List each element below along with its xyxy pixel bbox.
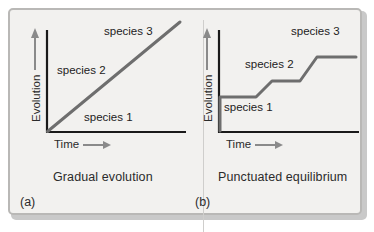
panel-b-plot xyxy=(193,0,374,232)
panel-a-y-arrow-icon xyxy=(31,28,39,70)
panel-b-y-arrow-icon xyxy=(203,28,211,70)
panel-a-y-axis-label: Evolution xyxy=(30,75,42,122)
panel-a-y-axis-label-group: Evolution xyxy=(30,75,42,122)
panel-a-species-3-label: species 3 xyxy=(104,25,153,37)
panel-a-x-arrow-icon xyxy=(83,140,111,149)
panel-b-species-3-label: species 3 xyxy=(291,25,340,37)
panel-a-x-axis-label-group: Time xyxy=(54,138,111,150)
panel-a-species-2-label: species 2 xyxy=(57,64,106,76)
panel-b-y-axis-label-group: Evolution xyxy=(202,75,214,122)
panel-punctuated-equilibrium: Evolution Time species 1 species 2 speci… xyxy=(193,0,374,232)
panel-a-letter: (a) xyxy=(20,195,35,209)
panel-a-caption: Gradual evolution xyxy=(53,170,153,184)
panel-b-species-1-label: species 1 xyxy=(224,101,273,113)
panel-b-y-axis-label: Evolution xyxy=(202,75,214,122)
figure-root: Evolution Time species 1 species 2 speci… xyxy=(0,0,374,232)
panel-b-caption: Punctuated equilibrium xyxy=(218,170,347,184)
panel-a-x-axis-label: Time xyxy=(54,138,79,150)
panel-b-species-2-label: species 2 xyxy=(245,58,294,70)
panel-a-species-1-label: species 1 xyxy=(84,111,133,123)
panel-b-x-axis-label-group: Time xyxy=(226,138,283,150)
panel-b-letter: (b) xyxy=(195,195,210,209)
panel-gradual-evolution: Evolution Time species 1 species 2 speci… xyxy=(0,0,193,232)
panel-b-x-arrow-icon xyxy=(255,140,283,149)
panel-b-x-axis-label: Time xyxy=(226,138,251,150)
